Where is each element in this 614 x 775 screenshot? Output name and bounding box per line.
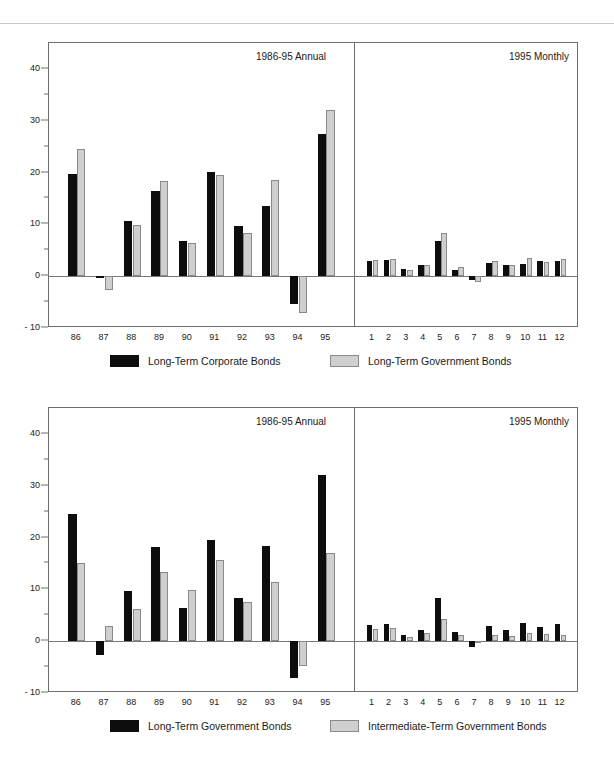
bar-light-94 xyxy=(299,276,307,313)
y-axis-tick xyxy=(41,327,48,328)
x-axis-tick-label: 12 xyxy=(554,332,564,342)
x-axis-tick-label: 6 xyxy=(454,332,459,342)
bar-light-90 xyxy=(188,590,196,641)
bar-light-89 xyxy=(160,572,168,641)
x-axis-tick-label: 5 xyxy=(437,697,442,707)
bar-light-7 xyxy=(475,641,481,643)
x-axis-tick-label: 95 xyxy=(320,697,330,707)
chart-top-annual-caption: 1986-95 Annual xyxy=(256,51,326,62)
y-axis-tick xyxy=(41,588,48,589)
x-axis-tick-label: 89 xyxy=(154,332,164,342)
x-axis-tick-label: 88 xyxy=(126,697,136,707)
bar-dark-11 xyxy=(537,627,543,642)
y-axis-tick xyxy=(41,275,48,276)
y-axis-tick-label: 30 xyxy=(30,480,40,490)
y-axis-tick-label: - 10 xyxy=(24,322,40,332)
bar-dark-94 xyxy=(290,276,298,303)
bar-light-5 xyxy=(441,233,447,276)
chart-bottom-y-axis: 403020100- 10 xyxy=(0,407,48,692)
bar-light-7 xyxy=(475,276,481,282)
x-axis-tick-label: 90 xyxy=(182,332,192,342)
chart-top-plot-area: 1986-95 Annual 1995 Monthly xyxy=(48,42,578,327)
bar-light-10 xyxy=(527,258,533,277)
bar-light-6 xyxy=(458,267,464,276)
legend-item: Intermediate-Term Government Bonds xyxy=(330,720,547,732)
x-axis-tick-label: 4 xyxy=(420,697,425,707)
y-axis-tick xyxy=(41,484,48,485)
bar-light-3 xyxy=(407,637,413,641)
bar-light-89 xyxy=(160,181,168,276)
bar-dark-90 xyxy=(179,608,187,641)
bar-light-12 xyxy=(561,259,567,276)
x-axis-tick-label: 12 xyxy=(554,697,564,707)
chart-top: 403020100- 10 1986-95 Annual 1995 Monthl… xyxy=(0,34,614,389)
bar-dark-2 xyxy=(384,624,390,641)
x-axis-tick-label: 10 xyxy=(520,332,530,342)
bar-dark-4 xyxy=(418,265,424,276)
legend-swatch-light xyxy=(330,355,359,367)
bar-dark-8 xyxy=(486,263,492,276)
bar-light-9 xyxy=(509,636,515,641)
x-axis-tick-label: 87 xyxy=(99,332,109,342)
y-axis-tick-label: 0 xyxy=(35,270,40,280)
x-axis-tick-label: 86 xyxy=(71,332,81,342)
bar-dark-91 xyxy=(207,172,215,277)
y-axis-tick xyxy=(41,432,48,433)
bar-dark-12 xyxy=(555,624,561,641)
chart-bottom-x-labels: 86878889909192939495123456789101112 xyxy=(48,694,578,712)
x-axis-tick-label: 93 xyxy=(265,332,275,342)
x-axis-tick-label: 2 xyxy=(386,332,391,342)
x-axis-tick-label: 2 xyxy=(386,697,391,707)
bar-dark-89 xyxy=(151,191,159,276)
bar-dark-10 xyxy=(520,264,526,276)
bar-dark-7 xyxy=(469,276,475,280)
bar-light-3 xyxy=(407,270,413,276)
bar-dark-89 xyxy=(151,547,159,641)
legend-swatch-dark xyxy=(110,720,139,732)
bar-light-91 xyxy=(216,175,224,276)
bar-light-11 xyxy=(544,634,550,641)
bar-dark-12 xyxy=(555,261,561,276)
bar-dark-91 xyxy=(207,540,215,641)
y-axis-tick-label: 10 xyxy=(30,583,40,593)
bar-light-95 xyxy=(326,110,334,276)
bar-dark-9 xyxy=(503,265,509,276)
bar-dark-95 xyxy=(318,475,326,641)
y-axis-tick xyxy=(41,692,48,693)
x-axis-tick-label: 9 xyxy=(506,332,511,342)
bar-light-2 xyxy=(390,628,396,641)
x-axis-tick-label: 8 xyxy=(489,332,494,342)
legend-swatch-dark xyxy=(110,355,139,367)
x-axis-tick-label: 91 xyxy=(209,697,219,707)
bar-dark-87 xyxy=(96,641,104,655)
page-header-remnant: · · · xyxy=(300,0,460,12)
bar-light-2 xyxy=(390,259,396,276)
bar-light-95 xyxy=(326,553,334,641)
chart-bottom: 403020100- 10 1986-95 Annual 1995 Monthl… xyxy=(0,399,614,769)
bar-dark-1 xyxy=(367,261,373,276)
bar-dark-1 xyxy=(367,625,373,641)
bar-light-93 xyxy=(271,582,279,642)
y-axis-tick xyxy=(41,119,48,120)
x-axis-tick-label: 87 xyxy=(99,697,109,707)
bar-light-4 xyxy=(424,633,430,641)
x-axis-tick-label: 89 xyxy=(154,697,164,707)
chart-top-y-axis: 403020100- 10 xyxy=(0,42,48,327)
bar-light-94 xyxy=(299,641,307,665)
bar-light-8 xyxy=(492,635,498,641)
bar-dark-94 xyxy=(290,641,298,678)
bar-light-1 xyxy=(373,629,379,641)
x-axis-tick-label: 88 xyxy=(126,332,136,342)
bar-dark-93 xyxy=(262,546,270,641)
bar-dark-5 xyxy=(435,598,441,641)
bar-light-90 xyxy=(188,243,196,276)
x-axis-tick-label: 7 xyxy=(472,697,477,707)
legend-label: Long-Term Government Bonds xyxy=(148,720,292,732)
bar-dark-86 xyxy=(68,514,76,641)
y-axis-tick xyxy=(41,640,48,641)
chart-bottom-monthly-caption: 1995 Monthly xyxy=(509,416,569,427)
bar-dark-3 xyxy=(401,635,407,641)
x-axis-tick-label: 10 xyxy=(520,697,530,707)
x-axis-tick-label: 1 xyxy=(369,332,374,342)
legend-item: Long-Term Corporate Bonds xyxy=(110,355,281,367)
